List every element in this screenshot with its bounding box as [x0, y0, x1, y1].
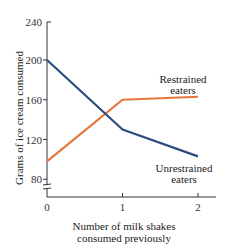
x-axis-title-line2: consumed previously [77, 232, 171, 244]
y-tick-label: 80 [31, 173, 43, 185]
axis-break-mark [43, 188, 51, 189]
x-tick-label: 2 [195, 201, 201, 213]
y-ticks: 80120160200240 [26, 16, 48, 185]
series-label-restrained-line2: eaters [170, 84, 196, 96]
y-tick-label: 200 [26, 54, 43, 66]
x-tick-label: 0 [44, 201, 50, 213]
x-tick-label: 1 [120, 201, 126, 213]
y-tick-label: 120 [26, 134, 43, 146]
y-tick-label: 240 [26, 16, 43, 28]
series-label-unrestrained-line2: eaters [171, 173, 197, 185]
y-tick-label: 160 [26, 94, 43, 106]
x-axis-title-line1: Number of milk shakes [73, 220, 176, 232]
y-axis [43, 22, 51, 197]
x-ticks: 012 [44, 193, 201, 213]
y-axis-title: Grams of ice cream consumed [13, 51, 25, 185]
axis-break-mark [43, 184, 51, 185]
line-chart: 80120160200240 012 Restrained eaters Unr… [0, 0, 231, 251]
